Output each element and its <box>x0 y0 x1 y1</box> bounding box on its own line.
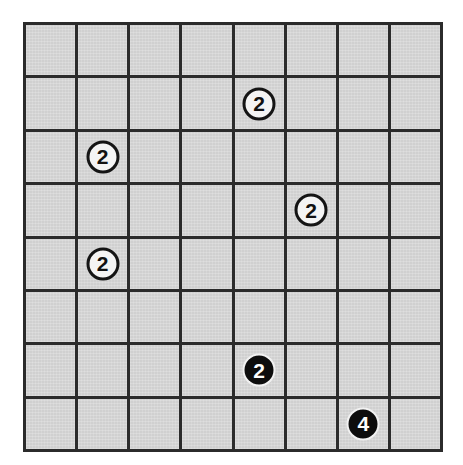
grid-cell-r6c7[interactable] <box>339 292 388 342</box>
grid-cell-r4c4[interactable] <box>182 185 231 235</box>
grid-cell-r4c8[interactable] <box>391 185 440 235</box>
clue-value: 2 <box>253 93 265 114</box>
grid-cell-r7c4[interactable] <box>182 345 231 395</box>
grid-cell-r2c2[interactable] <box>78 78 127 128</box>
grid-cell-r8c6[interactable] <box>287 399 336 449</box>
grid-cell-r2c1[interactable] <box>26 78 75 128</box>
grid-cell-r3c1[interactable] <box>26 132 75 182</box>
grid-cell-r6c4[interactable] <box>182 292 231 342</box>
grid-cell-r8c1[interactable] <box>26 399 75 449</box>
grid-cell-r6c6[interactable] <box>287 292 336 342</box>
clue-token-white-r2c5[interactable]: 2 <box>243 87 276 120</box>
puzzle-grid[interactable]: 222224 <box>23 22 443 452</box>
grid-cell-r7c5[interactable]: 2 <box>235 345 284 395</box>
grid-cell-r7c7[interactable] <box>339 345 388 395</box>
grid-cell-r5c7[interactable] <box>339 239 388 289</box>
grid-cell-r6c8[interactable] <box>391 292 440 342</box>
grid-cell-r6c3[interactable] <box>130 292 179 342</box>
grid-cell-r3c6[interactable] <box>287 132 336 182</box>
grid-cell-r1c7[interactable] <box>339 25 388 75</box>
grid-cell-r3c8[interactable] <box>391 132 440 182</box>
grid-cell-r1c5[interactable] <box>235 25 284 75</box>
clue-value: 2 <box>253 359 265 380</box>
grid-cell-r7c2[interactable] <box>78 345 127 395</box>
grid-cell-r5c8[interactable] <box>391 239 440 289</box>
clue-token-black-r7c5[interactable]: 2 <box>243 354 276 387</box>
grid-cell-r2c4[interactable] <box>182 78 231 128</box>
grid-cell-r7c3[interactable] <box>130 345 179 395</box>
grid-cell-r3c7[interactable] <box>339 132 388 182</box>
grid-cell-r8c8[interactable] <box>391 399 440 449</box>
grid-cell-r1c1[interactable] <box>26 25 75 75</box>
puzzle-root: 222224 <box>0 0 463 465</box>
grid-cell-r5c6[interactable] <box>287 239 336 289</box>
grid-cell-r1c3[interactable] <box>130 25 179 75</box>
grid-cell-r5c5[interactable] <box>235 239 284 289</box>
grid-cell-r1c8[interactable] <box>391 25 440 75</box>
grid-cell-r4c6[interactable]: 2 <box>287 185 336 235</box>
grid-cell-r7c6[interactable] <box>287 345 336 395</box>
grid-cell-r1c2[interactable] <box>78 25 127 75</box>
grid-cell-r3c3[interactable] <box>130 132 179 182</box>
grid-cell-r6c5[interactable] <box>235 292 284 342</box>
grid-cell-r2c3[interactable] <box>130 78 179 128</box>
clue-token-white-r3c2[interactable]: 2 <box>86 140 119 173</box>
grid-cell-r5c3[interactable] <box>130 239 179 289</box>
grid-cell-r8c7[interactable]: 4 <box>339 399 388 449</box>
grid-cell-r4c1[interactable] <box>26 185 75 235</box>
clue-value: 2 <box>305 199 317 220</box>
clue-value: 2 <box>97 253 109 274</box>
clue-token-white-r4c6[interactable]: 2 <box>295 194 328 227</box>
grid-cell-r3c4[interactable] <box>182 132 231 182</box>
grid-cell-r7c8[interactable] <box>391 345 440 395</box>
grid-cell-r1c4[interactable] <box>182 25 231 75</box>
grid-cell-r5c2[interactable]: 2 <box>78 239 127 289</box>
grid-cell-r2c8[interactable] <box>391 78 440 128</box>
grid-cell-r3c2[interactable]: 2 <box>78 132 127 182</box>
grid-cell-r8c2[interactable] <box>78 399 127 449</box>
grid-cell-r2c5[interactable]: 2 <box>235 78 284 128</box>
grid-cell-r4c3[interactable] <box>130 185 179 235</box>
grid-cell-r4c5[interactable] <box>235 185 284 235</box>
clue-token-white-r5c2[interactable]: 2 <box>86 247 119 280</box>
grid-cell-r8c4[interactable] <box>182 399 231 449</box>
grid-cell-r7c1[interactable] <box>26 345 75 395</box>
grid-cell-r3c5[interactable] <box>235 132 284 182</box>
grid-cell-r6c1[interactable] <box>26 292 75 342</box>
clue-token-black-r8c7[interactable]: 4 <box>347 407 380 440</box>
grid-cell-r4c7[interactable] <box>339 185 388 235</box>
grid-cell-r1c6[interactable] <box>287 25 336 75</box>
grid-cell-r5c4[interactable] <box>182 239 231 289</box>
grid-cell-r2c6[interactable] <box>287 78 336 128</box>
grid-cell-r2c7[interactable] <box>339 78 388 128</box>
grid-cell-r6c2[interactable] <box>78 292 127 342</box>
grid-cell-r5c1[interactable] <box>26 239 75 289</box>
grid-cell-r4c2[interactable] <box>78 185 127 235</box>
grid-cell-r8c3[interactable] <box>130 399 179 449</box>
clue-value: 4 <box>357 413 369 434</box>
clue-value: 2 <box>97 146 109 167</box>
grid-cell-r8c5[interactable] <box>235 399 284 449</box>
